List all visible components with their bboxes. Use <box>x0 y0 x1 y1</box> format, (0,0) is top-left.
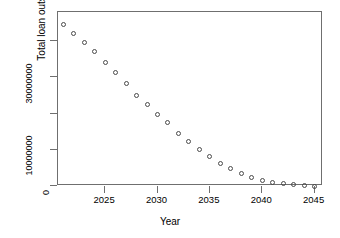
data-point <box>302 183 307 188</box>
data-point <box>260 178 265 183</box>
chart-figure: Total loan outstanding 01000000030000000… <box>0 0 340 238</box>
y-axis-tick <box>50 149 57 150</box>
x-axis-title: Year <box>0 216 340 227</box>
y-axis-tick <box>50 185 57 186</box>
y-axis-title: Total loan outstanding <box>33 0 49 107</box>
data-point <box>228 166 233 171</box>
x-axis-tick <box>104 186 105 193</box>
x-axis-tick-label: 2045 <box>284 195 340 205</box>
data-point <box>218 161 223 166</box>
data-point <box>103 60 108 65</box>
x-axis-tick <box>209 186 210 193</box>
data-point <box>197 147 202 152</box>
data-point <box>145 102 150 107</box>
y-axis-tick-label: 10000000 <box>0 144 49 153</box>
data-point <box>239 171 244 176</box>
data-point <box>61 22 66 27</box>
x-axis-tick-label: 2025 <box>74 195 134 205</box>
y-axis-tick <box>50 40 57 41</box>
data-point <box>82 40 87 45</box>
data-point <box>186 139 191 144</box>
y-axis-tick <box>50 113 57 114</box>
data-point <box>134 93 139 98</box>
y-axis-title-holder: Total loan outstanding <box>8 4 24 194</box>
y-axis-tick-label: 30000000 <box>0 72 49 81</box>
x-axis-tick <box>157 186 158 193</box>
data-point <box>176 131 181 136</box>
x-axis-tick-label: 2030 <box>127 195 187 205</box>
x-axis-tick <box>261 186 262 193</box>
y-axis-tick-label: 0 <box>0 181 49 190</box>
data-point <box>92 49 97 54</box>
x-axis-tick-label: 2040 <box>231 195 291 205</box>
data-point <box>124 81 129 86</box>
data-point <box>291 182 296 187</box>
data-point <box>155 112 160 117</box>
data-point <box>312 184 317 189</box>
data-point <box>281 181 286 186</box>
x-axis-tick-label: 2035 <box>179 195 239 205</box>
data-point <box>207 154 212 159</box>
scatter-series <box>58 12 321 184</box>
data-point <box>113 70 118 75</box>
data-point <box>249 175 254 180</box>
data-point <box>165 120 170 125</box>
plot-area <box>57 11 322 185</box>
y-axis-tick <box>50 76 57 77</box>
data-point <box>71 31 76 36</box>
data-point <box>270 180 275 185</box>
